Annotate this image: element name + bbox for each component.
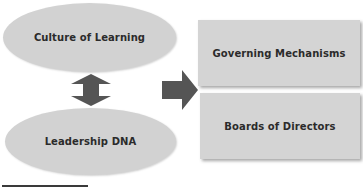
leadership-dna-label: Leadership DNA <box>45 136 137 147</box>
governing-mechanisms-box: Governing Mechanisms <box>198 20 360 86</box>
boards-of-directors-label: Boards of Directors <box>224 121 335 132</box>
arrow-right-icon <box>162 70 198 110</box>
governing-mechanisms-label: Governing Mechanisms <box>212 48 345 59</box>
culture-of-learning-label: Culture of Learning <box>34 32 145 43</box>
footnote-rule <box>2 185 88 187</box>
culture-of-learning-ellipse: Culture of Learning <box>3 3 176 72</box>
double-arrow-vertical-icon <box>70 74 112 106</box>
leadership-dna-ellipse: Leadership DNA <box>5 108 176 175</box>
boards-of-directors-box: Boards of Directors <box>200 93 360 159</box>
